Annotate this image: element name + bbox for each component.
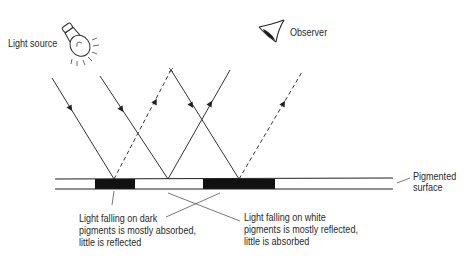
- reflected-ray-solid: [168, 70, 230, 179]
- light-source-label: Light source: [8, 37, 57, 50]
- reflected-ray-dashed-2: [239, 72, 302, 179]
- arrowhead-icon: [206, 99, 214, 107]
- incident-ray-2: [100, 76, 168, 179]
- dark-pigment-block: [203, 179, 275, 189]
- diagram-canvas: [0, 0, 468, 256]
- eye-icon: [259, 20, 284, 42]
- arrowhead-icon: [279, 99, 287, 107]
- light-bulb-icon: [58, 20, 99, 66]
- pigmented-surface-label-2: surface: [413, 181, 443, 194]
- observer-label: Observer: [290, 26, 327, 39]
- incident-ray-1: [52, 78, 114, 179]
- dark-pigment-block: [95, 179, 135, 189]
- pigmented-surface: [55, 178, 393, 189]
- arrowhead-icon: [66, 104, 74, 112]
- arrowhead-icon: [151, 97, 159, 105]
- light-rays-icon: [71, 38, 99, 66]
- light-rays: [52, 68, 302, 179]
- arrowheads: [66, 97, 287, 113]
- incident-ray-3: [171, 70, 239, 179]
- reflected-ray-dashed-1: [114, 70, 171, 179]
